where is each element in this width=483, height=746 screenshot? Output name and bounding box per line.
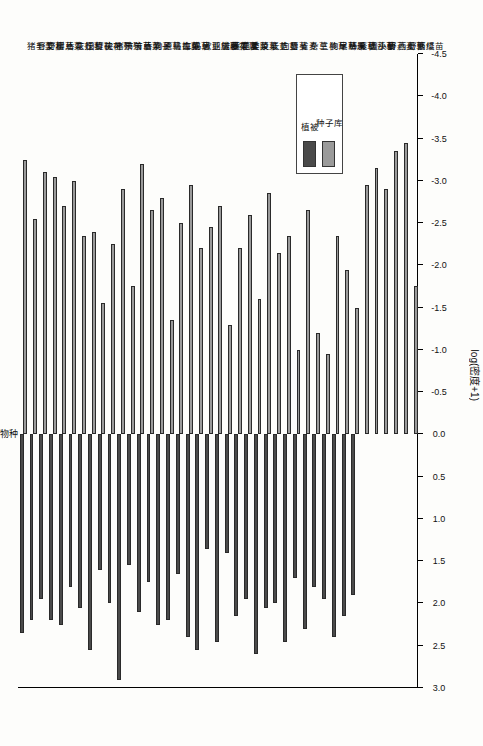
x-tick <box>418 264 423 265</box>
x-tick-label: 2.5 <box>427 641 451 651</box>
x-tick <box>418 433 423 434</box>
x-tick <box>418 138 423 139</box>
bar-seedbank <box>258 299 262 434</box>
bar-vegetation <box>215 434 219 641</box>
x-tick <box>418 307 423 308</box>
x-tick-label: -2.5 <box>427 218 451 228</box>
chart-figure: 物种 3.02.52.01.51.00.50.0-0.5-1.0-1.5-2.0… <box>0 0 483 746</box>
bar-vegetation <box>156 434 160 624</box>
bar-seedbank <box>297 350 301 435</box>
legend-swatch <box>322 141 335 167</box>
bar-seedbank <box>160 198 164 435</box>
category-label: 繁缕 <box>418 42 436 51</box>
legend-label: 种子库 <box>316 116 343 128</box>
bar-seedbank <box>375 168 379 434</box>
x-axis-title: log(密度+1) <box>468 350 483 401</box>
bar-vegetation <box>205 434 209 548</box>
bar-vegetation <box>283 434 287 641</box>
x-tick <box>418 518 423 519</box>
bar-seedbank <box>355 308 359 435</box>
bar-seedbank <box>53 177 57 435</box>
bar-vegetation <box>88 434 92 650</box>
bar-vegetation <box>147 434 151 582</box>
x-tick-label: 1.0 <box>427 514 451 524</box>
bar-seedbank <box>179 223 183 434</box>
bar-seedbank <box>336 236 340 435</box>
x-tick-label: 1.5 <box>427 556 451 566</box>
bar-vegetation <box>234 434 238 616</box>
bar-vegetation <box>39 434 43 599</box>
bar-vegetation <box>98 434 102 569</box>
bar-seedbank <box>209 227 213 434</box>
bar-seedbank <box>62 206 66 434</box>
bar-seedbank <box>326 354 330 434</box>
bar-seedbank <box>248 215 252 435</box>
bar-seedbank <box>394 151 398 434</box>
bar-vegetation <box>312 434 316 586</box>
bar-seedbank <box>92 232 96 435</box>
bar-seedbank <box>170 320 174 434</box>
x-tick-label: 3.0 <box>427 683 451 693</box>
bar-seedbank <box>277 253 281 435</box>
bar-seedbank <box>365 185 369 434</box>
bar-vegetation <box>225 434 229 552</box>
bar-seedbank <box>101 303 105 434</box>
bar-vegetation <box>264 434 268 607</box>
bar-vegetation <box>117 434 121 679</box>
bar-seedbank <box>316 333 320 434</box>
x-tick-label: -1.0 <box>427 345 451 355</box>
bar-vegetation <box>273 434 277 603</box>
bar-vegetation <box>127 434 131 565</box>
bar-seedbank <box>404 143 408 435</box>
bar-vegetation <box>186 434 190 637</box>
x-tick <box>418 476 423 477</box>
zero-axis-line <box>18 687 418 688</box>
x-tick <box>418 602 423 603</box>
bar-vegetation <box>137 434 141 612</box>
bar-seedbank <box>150 210 154 434</box>
bar-seedbank <box>218 206 222 434</box>
bar-seedbank <box>238 248 242 434</box>
bar-seedbank <box>72 181 76 435</box>
x-tick <box>418 95 423 96</box>
bar-seedbank <box>111 244 115 434</box>
bar-seedbank <box>121 189 125 434</box>
bar-vegetation <box>59 434 63 624</box>
bar-vegetation <box>195 434 199 650</box>
bar-vegetation <box>342 434 346 616</box>
x-tick-label: -3.0 <box>427 176 451 186</box>
x-tick <box>418 687 423 688</box>
bar-vegetation <box>30 434 34 620</box>
x-tick <box>418 349 423 350</box>
bar-seedbank <box>33 219 37 435</box>
bar-seedbank <box>345 270 349 435</box>
x-tick-label: -2.0 <box>427 260 451 270</box>
bar-seedbank <box>189 185 193 434</box>
bar-seedbank <box>228 325 232 435</box>
x-tick-label: 0.5 <box>427 472 451 482</box>
bar-seedbank <box>82 236 86 435</box>
bar-vegetation <box>176 434 180 573</box>
bar-vegetation <box>108 434 112 603</box>
legend-swatch <box>303 141 316 167</box>
bar-seedbank <box>199 248 203 434</box>
bar-seedbank <box>140 164 144 435</box>
x-tick-label: -1.5 <box>427 303 451 313</box>
bar-seedbank <box>287 236 291 435</box>
bar-seedbank <box>414 286 418 434</box>
bar-seedbank <box>306 210 310 434</box>
bar-vegetation <box>303 434 307 628</box>
x-tick-label: 0.0 <box>427 429 451 439</box>
bar-vegetation <box>332 434 336 637</box>
bar-seedbank <box>23 160 27 435</box>
category-label: 藜 <box>291 42 300 51</box>
bar-vegetation <box>49 434 53 620</box>
bar-vegetation <box>254 434 258 654</box>
x-tick <box>418 645 423 646</box>
bar-vegetation <box>20 434 24 633</box>
x-tick-label: -4.0 <box>427 91 451 101</box>
bar-vegetation <box>244 434 248 599</box>
bar-vegetation <box>293 434 297 578</box>
x-tick-label: -0.5 <box>427 387 451 397</box>
x-tick-label: 2.0 <box>427 598 451 608</box>
